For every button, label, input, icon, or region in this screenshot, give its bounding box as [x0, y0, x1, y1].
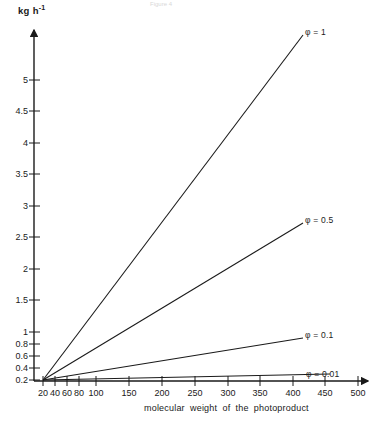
x-tick-label: 100 — [86, 389, 106, 398]
x-tick-label: 80 — [72, 389, 86, 398]
y-tick-label: 0.8 — [0, 340, 28, 349]
x-tick-label: 350 — [250, 389, 270, 398]
x-tick-label: 300 — [218, 389, 238, 398]
y-tick-label: 4 — [0, 139, 28, 148]
y-tick-label: 2.5 — [0, 233, 28, 242]
y-axis-unit-exponent: -1 — [39, 4, 46, 11]
y-axis-unit-text: kg h — [18, 5, 39, 16]
series-label-phi-0-5: φ = 0.5 — [305, 216, 333, 225]
y-tick-label: 2 — [0, 265, 28, 274]
y-tick-label: 0.4 — [0, 364, 28, 373]
y-tick-label: 0.2 — [0, 376, 28, 385]
x-tick-label: 250 — [185, 389, 205, 398]
y-tick-label: 1.5 — [0, 296, 28, 305]
y-tick-label: 3 — [0, 202, 28, 211]
x-tick-label: 150 — [119, 389, 139, 398]
y-axis-unit-label: kg h-1 — [18, 6, 46, 16]
series-line-phi-0-5 — [43, 223, 303, 380]
x-tick-label: 450 — [315, 389, 335, 398]
x-tick-label: 400 — [283, 389, 303, 398]
y-tick-label: 0.6 — [0, 352, 28, 361]
series-label-phi-0-01: φ = 0.01 — [306, 370, 339, 379]
series-line-phi-0-01 — [43, 374, 330, 380]
y-tick-label: 3.5 — [0, 170, 28, 179]
y-tick-label: 5 — [0, 76, 28, 85]
series-line-phi-0-1 — [43, 338, 303, 380]
y-tick-label: 1 — [0, 328, 28, 337]
series-label-phi-0-1: φ = 0.1 — [305, 331, 333, 340]
x-tick-label: 500 — [348, 389, 368, 398]
x-tick-label: 200 — [152, 389, 172, 398]
figure-container: Figure 4 — [0, 0, 375, 430]
series-label-phi-1: φ = 1 — [305, 28, 326, 37]
y-tick-label: 4.5 — [0, 107, 28, 116]
x-axis-title: molecular weight of the photoproduct — [144, 404, 309, 413]
series-line-phi-1 — [43, 35, 303, 380]
